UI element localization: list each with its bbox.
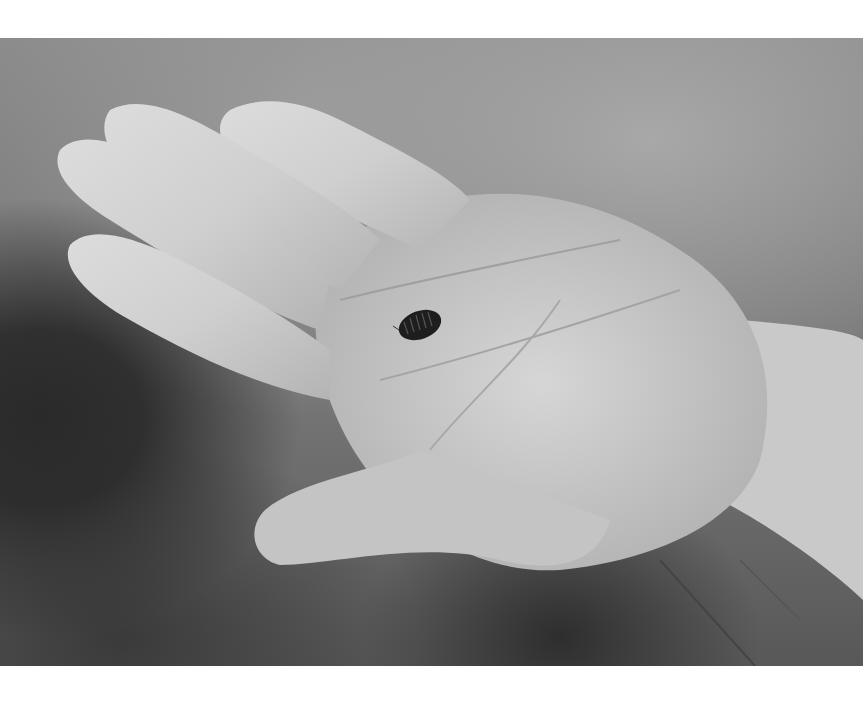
hand-illustration [0,38,863,666]
photograph [0,38,863,666]
